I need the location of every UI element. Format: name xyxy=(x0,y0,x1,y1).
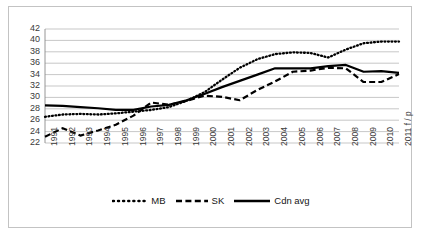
y-axis-tick-label: 42 xyxy=(24,24,40,33)
y-axis-tick-label: 38 xyxy=(24,47,40,56)
legend-swatch-dashed-icon xyxy=(175,196,209,206)
x-axis-tick-label: 2001 xyxy=(226,127,236,146)
x-axis-tick-label: 1993 xyxy=(84,127,94,146)
x-axis-tick-label: 1999 xyxy=(191,127,201,146)
chart-container: 4240383634323028262422 19911992199319941… xyxy=(8,6,412,228)
x-axis-tick-label: 2007 xyxy=(332,127,342,146)
x-axis-tick-label: 1995 xyxy=(120,127,130,146)
y-axis-tick-label: 40 xyxy=(24,35,40,44)
y-axis-tick-label: 22 xyxy=(24,138,40,147)
legend-item-sk[interactable]: SK xyxy=(175,195,225,206)
y-axis-tick-label: 26 xyxy=(24,115,40,124)
x-axis-tick-label: 1992 xyxy=(67,127,77,146)
x-axis-tick-label: 1996 xyxy=(138,127,148,146)
x-axis-tick-label: 2004 xyxy=(279,127,289,146)
x-axis-tick-label: 1997 xyxy=(155,127,165,146)
x-axis-tick-label: 2002 xyxy=(244,127,254,146)
y-axis-tick-label: 36 xyxy=(24,58,40,67)
y-axis-tick-label: 24 xyxy=(24,127,40,136)
legend-item-mb[interactable]: MB xyxy=(112,195,165,206)
legend-label: Cdn avg xyxy=(274,195,309,206)
y-axis-tick-label: 32 xyxy=(24,81,40,90)
x-axis-tick-label: 2005 xyxy=(297,127,307,146)
y-axis-tick-label: 28 xyxy=(24,104,40,113)
legend-swatch-dotted-icon xyxy=(112,196,148,206)
legend-item-cdn-avg[interactable]: Cdn avg xyxy=(233,195,309,206)
x-axis-tick-label: 2011 f / p xyxy=(403,111,413,146)
legend-label: SK xyxy=(212,195,225,206)
x-axis-tick-label: 2010 xyxy=(385,127,395,146)
legend-label: MB xyxy=(151,195,165,206)
x-axis-tick-label: 1991 xyxy=(49,127,59,146)
legend-swatch-solid-icon xyxy=(233,196,271,206)
y-axis-tick-label: 30 xyxy=(24,92,40,101)
x-axis-tick-label: 1998 xyxy=(173,127,183,146)
x-axis-tick-label: 1994 xyxy=(102,127,112,146)
x-axis-tick-label: 2006 xyxy=(315,127,325,146)
x-axis-tick-label: 2003 xyxy=(261,127,271,146)
chart-plot-area: 4240383634323028262422 19911992199319941… xyxy=(9,7,411,227)
x-axis-tick-label: 2000 xyxy=(208,127,218,146)
x-axis-tick-label: 2009 xyxy=(368,127,378,146)
y-axis-tick-label: 34 xyxy=(24,70,40,79)
chart-legend: MBSKCdn avg xyxy=(9,195,413,206)
x-axis-tick-label: 2008 xyxy=(350,127,360,146)
